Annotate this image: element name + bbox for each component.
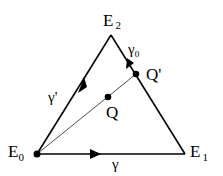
vertex-label-e2: E2 — [103, 12, 119, 29]
arrow-gamma-0-icon — [126, 58, 134, 69]
point-e0 — [34, 151, 41, 158]
vertex-label-e0: E0 — [8, 143, 24, 160]
vertex-label-e1: E1 — [190, 143, 206, 160]
point-q — [105, 94, 112, 101]
path-label-gamma-prime: γ' — [48, 90, 57, 105]
path-label-gamma-0: γ0 — [128, 41, 139, 57]
arrow-gamma-icon — [90, 149, 101, 159]
point-qprime — [133, 71, 140, 78]
point-label-q: Q — [106, 104, 118, 121]
path-label-gamma: γ — [112, 157, 119, 172]
point-label-qprime: Q' — [146, 66, 161, 83]
edge-e2-e1 — [111, 35, 185, 154]
